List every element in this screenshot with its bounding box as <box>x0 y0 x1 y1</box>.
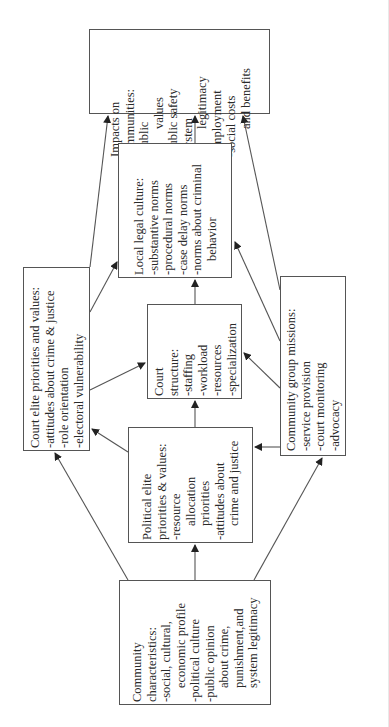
court-structure-box: Court structure: -staffing -workload -re… <box>147 304 242 399</box>
local-legal-culture-text: Local legal culture: -substantive norms … <box>132 147 219 275</box>
edge-court-elite-to-structure <box>90 363 145 390</box>
political-elite-box: Political elite priorities & values: -re… <box>128 427 253 543</box>
edge-community-to-groups <box>254 458 322 580</box>
court-structure-text: Court structure: -staffing -workload -re… <box>151 308 238 396</box>
community-characteristics-box: Community characteristics: -social, cult… <box>119 580 271 705</box>
edge-community-to-court-elite <box>55 453 128 580</box>
local-legal-culture-box: Local legal culture: -substantive norms … <box>118 143 232 278</box>
impacts-text: Impacts on communities: -public values -… <box>107 0 252 157</box>
political-elite-text: Political elite priorities & values: -re… <box>140 430 242 540</box>
community-group-missions-box: Community group missions: -service provi… <box>280 276 346 456</box>
impacts-box: Impacts on communities: -public values -… <box>89 29 270 114</box>
court-elite-box: Court elite priorities and values: -atti… <box>23 267 90 451</box>
diagram-canvas: Impacts on communities: -public values -… <box>0 0 389 727</box>
edge-political-to-court-elite <box>92 429 128 452</box>
edge-court-elite-to-legal-culture <box>90 262 117 312</box>
community-group-missions-text: Community group missions: -service provi… <box>284 281 342 451</box>
community-characteristics-text: Community characteristics: -social, cult… <box>130 584 261 702</box>
court-elite-text: Court elite priorities and values: -atti… <box>28 270 86 448</box>
edge-court-elite-to-impacts <box>90 116 108 267</box>
edge-groups-to-structure <box>244 353 280 388</box>
